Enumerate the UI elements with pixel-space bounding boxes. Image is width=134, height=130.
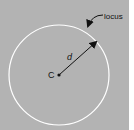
radius-arrow-icon [59,42,96,75]
center-label: C [48,70,55,80]
locus-diagram: C d locus [0,0,134,130]
locus-pointer-arrow-icon [88,15,103,26]
locus-label: locus [104,12,123,21]
radius-label: d [67,52,73,62]
